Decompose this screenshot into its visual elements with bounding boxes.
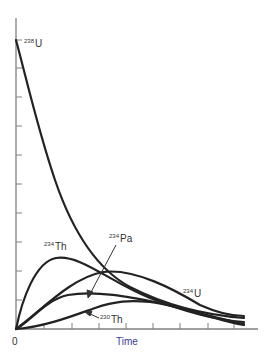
y-ticks: [16, 40, 22, 300]
label-234Pa: 234Pa: [109, 233, 132, 244]
th230-arrowhead: [85, 311, 92, 316]
decay-chain-chart: [0, 0, 265, 360]
origin-label: 0: [12, 337, 18, 347]
curve-234Th: [16, 258, 244, 329]
x-axis-label: Time: [116, 337, 138, 347]
label-234Th: 234Th: [44, 241, 67, 252]
label-238U: 238U: [24, 38, 42, 49]
curve-238U: [16, 40, 244, 318]
label-234U: 234U: [183, 288, 201, 299]
label-230Th: 230Th: [100, 314, 123, 325]
x-ticks: [44, 323, 234, 329]
